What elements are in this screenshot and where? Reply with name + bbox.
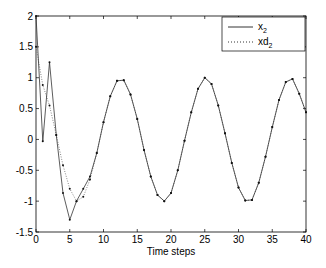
data-point bbox=[62, 164, 64, 166]
data-point bbox=[224, 132, 226, 134]
data-point bbox=[298, 93, 300, 95]
data-point bbox=[69, 219, 71, 221]
data-point bbox=[211, 83, 213, 85]
data-point bbox=[251, 199, 253, 201]
data-point bbox=[89, 175, 91, 177]
data-point bbox=[163, 200, 165, 202]
x-tick-label: 20 bbox=[165, 234, 177, 245]
x-tick-label: 35 bbox=[267, 234, 279, 245]
data-point bbox=[305, 111, 307, 113]
data-point bbox=[69, 188, 71, 190]
data-point bbox=[96, 152, 98, 154]
data-point bbox=[278, 99, 280, 101]
data-point bbox=[238, 187, 240, 189]
y-tick-label: 1.5 bbox=[19, 41, 33, 52]
data-point bbox=[89, 179, 91, 181]
data-point bbox=[197, 88, 199, 90]
x-axis-tick-labels: 0510152025303540 bbox=[33, 234, 312, 245]
data-point bbox=[123, 79, 125, 81]
data-point bbox=[258, 182, 260, 184]
y-tick-label: 1 bbox=[27, 72, 33, 83]
y-axis-tick-labels: -1.5-1-0.500.511.52 bbox=[16, 11, 34, 238]
data-point bbox=[55, 134, 57, 136]
data-point bbox=[109, 95, 111, 97]
data-point bbox=[143, 149, 145, 151]
data-point bbox=[292, 78, 294, 80]
data-point bbox=[170, 192, 172, 194]
legend: x2 xd2 bbox=[222, 17, 305, 51]
data-point bbox=[265, 156, 267, 158]
data-point bbox=[231, 162, 233, 164]
line-chart: -1.5-1-0.500.511.52 0510152025303540 Tim… bbox=[0, 0, 326, 268]
x-tick-label: 30 bbox=[233, 234, 245, 245]
y-tick-label: 0 bbox=[27, 134, 33, 145]
y-tick-label: -1.5 bbox=[16, 227, 34, 238]
data-point bbox=[157, 194, 159, 196]
data-point bbox=[103, 121, 105, 123]
data-point bbox=[190, 111, 192, 113]
data-point bbox=[82, 196, 84, 198]
data-point bbox=[76, 200, 78, 202]
data-point bbox=[150, 175, 152, 177]
y-tick-label: -0.5 bbox=[16, 165, 34, 176]
data-point bbox=[42, 84, 44, 86]
data-point bbox=[116, 80, 118, 82]
data-point bbox=[244, 200, 246, 202]
y-tick-label: 0.5 bbox=[19, 103, 33, 114]
data-point bbox=[62, 192, 64, 194]
data-point bbox=[136, 118, 138, 120]
data-point bbox=[35, 46, 37, 48]
data-point bbox=[35, 15, 37, 17]
y-tick-label: 2 bbox=[27, 11, 33, 22]
data-point bbox=[130, 93, 132, 95]
x-axis-label: Time steps bbox=[147, 246, 196, 257]
data-point bbox=[184, 140, 186, 142]
data-point bbox=[285, 81, 287, 83]
data-point bbox=[271, 126, 273, 128]
x-tick-label: 40 bbox=[300, 234, 312, 245]
data-point bbox=[42, 140, 44, 142]
data-point bbox=[204, 77, 206, 79]
x-tick-label: 15 bbox=[132, 234, 144, 245]
data-point bbox=[49, 61, 51, 63]
data-point bbox=[217, 104, 219, 106]
data-point bbox=[49, 104, 51, 106]
x-tick-label: 10 bbox=[98, 234, 110, 245]
data-point bbox=[177, 169, 179, 171]
y-tick-label: -1 bbox=[24, 196, 33, 207]
x-tick-label: 5 bbox=[67, 234, 73, 245]
x-tick-label: 0 bbox=[33, 234, 39, 245]
x-tick-label: 25 bbox=[199, 234, 211, 245]
data-point bbox=[82, 188, 84, 190]
